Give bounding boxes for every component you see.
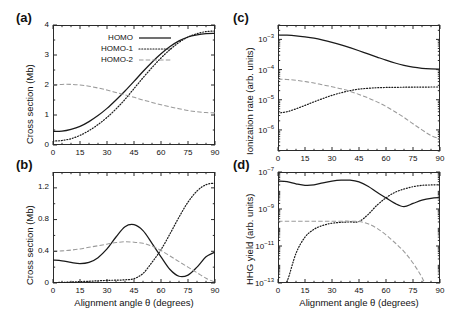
xtick-label: 15 bbox=[296, 286, 314, 295]
xtick-label: 0 bbox=[269, 286, 287, 295]
xtick-label: 45 bbox=[350, 286, 368, 295]
series-homo bbox=[278, 180, 440, 207]
xtick-label: 30 bbox=[323, 286, 341, 295]
figure-root: (a) Cross section (Mb) HOMOHOMO-1HOMO-2 … bbox=[0, 0, 457, 326]
xtick-label: 90 bbox=[431, 286, 449, 295]
panel-d-curves bbox=[0, 0, 457, 326]
panel-d-xlabel: Alignment angle θ (degrees) bbox=[278, 297, 440, 308]
xtick-label: 75 bbox=[404, 286, 422, 295]
ytick-label: 10−7 bbox=[242, 166, 274, 177]
xtick-label: 60 bbox=[377, 286, 395, 295]
ytick-label: 10−11 bbox=[242, 240, 274, 251]
ytick-label: 10−9 bbox=[242, 203, 274, 214]
